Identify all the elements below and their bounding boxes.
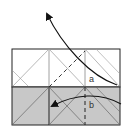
lower-gray-panel [12, 87, 120, 125]
origami-diagram: a b [0, 0, 128, 130]
upper-white-panel [12, 49, 120, 87]
label-a: a [89, 74, 94, 84]
label-b: b [89, 100, 94, 110]
